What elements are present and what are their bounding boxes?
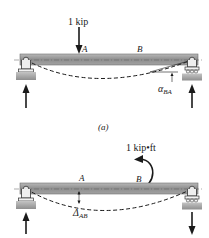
angle-label: αBA [158, 83, 173, 96]
moment-label: 1 kip•ft [126, 142, 156, 153]
deflection-label: ΔAB [72, 207, 88, 220]
reaction-arrow-right-down [189, 212, 196, 235]
beam-diagram: 1 kip A B αBA [0, 0, 209, 238]
beam [20, 54, 198, 65]
point-a-label: A [81, 44, 88, 54]
reaction-arrow-left-up [23, 212, 30, 234]
figure-a-caption: (a) [98, 122, 109, 132]
figure-b: 1 kip•ft A B ΔAB [14, 142, 204, 235]
ground-hatch [182, 203, 202, 210]
reaction-arrow-left [23, 84, 30, 108]
ground-hatch [16, 201, 36, 209]
load-label: 1 kip [68, 16, 88, 27]
point-b-label: B [137, 44, 143, 54]
point-b-label: B [136, 174, 142, 184]
ground-hatch [16, 72, 36, 80]
point-a-label: A [78, 173, 85, 183]
beam [20, 183, 198, 194]
reaction-arrow-right [189, 84, 196, 108]
ground-hatch [182, 74, 202, 81]
figure-a: 1 kip A B αBA [14, 16, 204, 132]
